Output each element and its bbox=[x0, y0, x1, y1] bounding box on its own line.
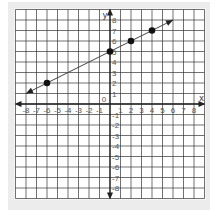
y-tick-label: -4 bbox=[112, 142, 120, 151]
x-tick-label: -6 bbox=[43, 106, 51, 115]
data-point bbox=[149, 27, 156, 34]
y-tick-label: -5 bbox=[112, 153, 120, 162]
y-tick-label: 2 bbox=[112, 79, 117, 88]
y-tick-label: 8 bbox=[112, 16, 117, 25]
y-axis-label: y bbox=[103, 10, 108, 20]
y-tick-label: 4 bbox=[112, 58, 117, 67]
x-tick-label: -2 bbox=[85, 106, 93, 115]
x-tick-label: 8 bbox=[192, 106, 197, 115]
y-tick-label: -1 bbox=[112, 111, 120, 120]
x-tick-label: -8 bbox=[22, 106, 30, 115]
coordinate-plane: -8-7-6-5-4-3-2-11234567887654321-1-2-3-4… bbox=[0, 0, 212, 212]
x-tick-label: 4 bbox=[150, 106, 155, 115]
origin-label: 0 bbox=[102, 95, 107, 104]
x-tick-label: -5 bbox=[54, 106, 62, 115]
x-tick-label: 3 bbox=[139, 106, 144, 115]
data-point bbox=[128, 38, 135, 45]
x-tick-label: -1 bbox=[96, 106, 104, 115]
y-tick-label: -6 bbox=[112, 163, 120, 172]
x-tick-label: -7 bbox=[33, 106, 41, 115]
y-tick-label: 3 bbox=[112, 69, 117, 78]
y-tick-label: -2 bbox=[112, 121, 120, 130]
x-tick-label: 6 bbox=[171, 106, 176, 115]
y-tick-label: -3 bbox=[112, 132, 120, 141]
data-point bbox=[44, 80, 51, 87]
y-tick-label: 6 bbox=[112, 37, 117, 46]
x-tick-label: -3 bbox=[75, 106, 83, 115]
data-point bbox=[107, 48, 114, 55]
x-tick-label: 7 bbox=[181, 106, 186, 115]
y-tick-label: -8 bbox=[112, 184, 120, 193]
x-tick-label: -4 bbox=[64, 106, 72, 115]
x-tick-label: 2 bbox=[129, 106, 134, 115]
x-tick-label: 5 bbox=[160, 106, 165, 115]
y-tick-label: -7 bbox=[112, 174, 120, 183]
x-axis-label: x bbox=[199, 93, 204, 103]
y-tick-label: 7 bbox=[112, 27, 117, 36]
y-tick-label: 1 bbox=[112, 90, 117, 99]
